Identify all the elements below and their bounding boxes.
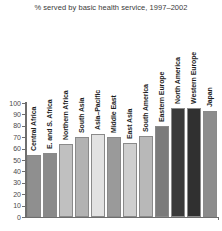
y-axis-tick <box>22 194 25 195</box>
bar-group: South America <box>139 103 153 217</box>
bar-category-label: E. and S. Africa <box>46 100 53 150</box>
bar-category-label: North America <box>174 57 181 104</box>
x-axis-tick-left <box>22 217 26 218</box>
bar[interactable] <box>59 144 73 217</box>
bar[interactable] <box>27 155 41 217</box>
y-axis-tick <box>22 114 25 115</box>
bar-category-label: Central Africa <box>30 107 37 151</box>
y-axis-tick-label: 0 <box>3 214 21 221</box>
bar-group: Central Africa <box>27 103 41 217</box>
bar[interactable] <box>75 137 89 217</box>
bar-category-label: Middle East <box>110 95 117 133</box>
bar-group: Western Europe <box>187 103 201 217</box>
bar[interactable] <box>187 108 201 217</box>
y-axis-tick <box>22 183 25 184</box>
bar-category-label: Western Europe <box>190 51 197 103</box>
y-axis-tick-label: 80 <box>3 122 21 129</box>
y-axis-tick-label: 100 <box>3 100 21 107</box>
bar-group: South Asia <box>75 103 89 217</box>
bar-group: Japan <box>203 103 217 217</box>
bar[interactable] <box>43 153 57 217</box>
bar-category-label: Eastern Europe <box>158 71 165 121</box>
bar-group: East Asia <box>123 103 137 217</box>
bar-group: North America <box>171 103 185 217</box>
bar[interactable] <box>91 134 105 217</box>
x-axis-tick-right <box>218 217 219 220</box>
bar-category-label: South Asia <box>78 98 85 133</box>
bar[interactable] <box>123 143 137 217</box>
bar[interactable] <box>203 111 217 217</box>
y-axis-tick-label: 50 <box>3 157 21 164</box>
y-axis-tick-label: 40 <box>3 168 21 175</box>
y-axis-tick-label: 60 <box>3 145 21 152</box>
y-axis-tick-label: 70 <box>3 134 21 141</box>
bar-category-label: East Asia <box>126 109 133 139</box>
bar-category-label: Asia–Pacific <box>94 90 101 130</box>
bar-group: E. and S. Africa <box>43 103 57 217</box>
y-axis-tick <box>22 206 25 207</box>
bar[interactable] <box>171 108 185 217</box>
y-axis-tick <box>22 137 25 138</box>
bar-category-label: South America <box>142 84 149 132</box>
y-axis-tick <box>22 149 25 150</box>
y-axis-tick <box>22 160 25 161</box>
x-axis-line <box>25 217 219 218</box>
bar-group: Northern Africa <box>59 103 73 217</box>
bar-chart-figure: % served by basic health service, 1997–2… <box>0 0 222 231</box>
bar-group: Eastern Europe <box>155 103 169 217</box>
y-axis-tick <box>22 103 25 104</box>
bar-group: Middle East <box>107 103 121 217</box>
y-axis-tick-label: 90 <box>3 111 21 118</box>
chart-title: % served by basic health service, 1997–2… <box>0 3 222 12</box>
y-axis-tick <box>22 171 25 172</box>
plot-area: Central AfricaE. and S. AfricaNorthern A… <box>26 103 218 217</box>
bar[interactable] <box>155 126 169 217</box>
bar-group: Asia–Pacific <box>91 103 105 217</box>
y-axis-tick-label: 10 <box>3 202 21 209</box>
bar[interactable] <box>107 137 121 217</box>
bar-category-label: Japan <box>206 87 213 107</box>
y-axis-tick <box>22 126 25 127</box>
y-axis-tick-label: 20 <box>3 191 21 198</box>
y-axis-tick-label: 30 <box>3 179 21 186</box>
bar-category-label: Northern Africa <box>62 90 69 140</box>
bar[interactable] <box>139 136 153 217</box>
